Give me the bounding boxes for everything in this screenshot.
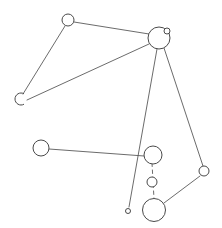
node-right[interactable] — [199, 166, 209, 176]
node-chain-middle[interactable] — [147, 177, 157, 187]
node-mid-left[interactable] — [33, 140, 49, 156]
node-top-left[interactable] — [62, 14, 74, 26]
edge-top-left-to-left-arc — [23, 26, 65, 94]
edge-top-left-to-hub — [74, 22, 149, 34]
edge-left-arc-to-hub — [27, 44, 149, 100]
node-chain-lower[interactable] — [143, 199, 166, 222]
node-chain-upper[interactable] — [144, 146, 162, 164]
node-tiny-bottom[interactable] — [126, 209, 131, 214]
edge-layer — [23, 22, 203, 207]
node-left-open-arc[interactable] — [15, 93, 24, 105]
edge-mid-left-to-chain — [49, 149, 144, 156]
edge-hub-to-right-node — [164, 48, 203, 166]
graph-svg — [0, 0, 222, 228]
node-satellite-small[interactable] — [164, 28, 170, 34]
graph-canvas — [0, 0, 222, 228]
edge-chain-lower-to-right — [164, 176, 200, 203]
node-layer — [15, 14, 209, 222]
